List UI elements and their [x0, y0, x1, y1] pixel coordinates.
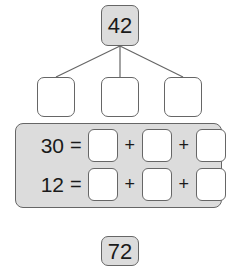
equation-total: 30: [24, 134, 64, 158]
answer-cell[interactable]: [88, 129, 118, 162]
equation-total: 12: [24, 173, 64, 197]
equation-row-2: 12 = + +: [16, 168, 226, 201]
next-root-number-box: 72: [101, 236, 139, 266]
branch-box-3[interactable]: [164, 77, 202, 117]
answer-cell[interactable]: [142, 129, 172, 162]
equation-row-1: 30 = + +: [16, 129, 226, 162]
equations-panel: 30 = + + 12 = + +: [15, 123, 222, 208]
plus-sign: +: [118, 135, 142, 156]
answer-cell[interactable]: [142, 168, 172, 201]
plus-sign: +: [172, 135, 196, 156]
plus-sign: +: [118, 174, 142, 195]
plus-sign: +: [172, 174, 196, 195]
branch-box-2[interactable]: [101, 77, 139, 117]
equals-sign: =: [70, 134, 82, 157]
answer-cell[interactable]: [196, 168, 226, 201]
answer-cell[interactable]: [196, 129, 226, 162]
answer-cell[interactable]: [88, 168, 118, 201]
equals-sign: =: [70, 173, 82, 196]
next-root-number: 72: [108, 239, 132, 265]
branch-box-1[interactable]: [37, 77, 75, 117]
